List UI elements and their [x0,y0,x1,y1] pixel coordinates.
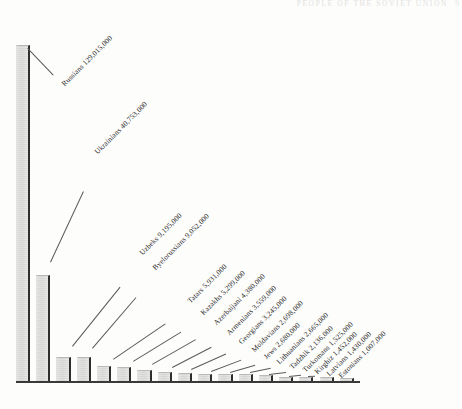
bar-tadzhik [259,375,273,381]
bar-azerbaijani [137,370,151,381]
bar-chart: Russians 129,015,000Ukrainians 40,753,00… [0,0,462,409]
scanned-page: PEOPLE OF THE SOVIET UNION 9 Russians 12… [0,0,462,409]
leader-line [133,332,182,362]
bar-annotation: Byelorussians 9,052,000 [151,212,211,272]
bar-annotation: Russians 129,015,000 [60,33,115,88]
bar-armenians [158,372,172,381]
bar-russians [16,45,30,381]
bar-georgians [178,373,192,381]
chart-baseline [16,381,360,383]
leader-line [50,191,84,262]
bar-turkomans [279,377,293,381]
bar-kazakhs [117,367,131,381]
bar-lithuanians [239,374,253,381]
bar-uzbeks [56,357,70,381]
bar-jews [218,374,232,381]
leader-line [92,297,136,348]
bar-annotation: Ukrainians 40,753,000 [93,100,149,156]
leader-line [152,339,196,365]
bar-moldavians [198,374,212,381]
bar-kirghiz [299,377,313,381]
bar-tatars [97,366,111,381]
leader-line [250,368,271,373]
leader-line [72,287,121,347]
bar-ukrainians [36,275,50,381]
leader-line [113,323,166,360]
bar-latvians [320,377,334,381]
leader-line [269,372,286,375]
bar-byelorussians [77,357,91,381]
leader-line [27,48,53,75]
